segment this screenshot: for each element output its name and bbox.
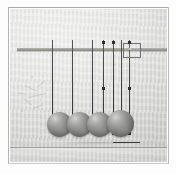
frame-rule-bottom bbox=[8, 163, 169, 164]
speck-8 bbox=[126, 70, 127, 71]
speck-5 bbox=[26, 119, 27, 120]
speck-1 bbox=[31, 76, 33, 78]
speck-2 bbox=[44, 72, 45, 73]
marker-left-mid bbox=[102, 87, 105, 90]
sighting-box bbox=[123, 43, 141, 58]
speck-6 bbox=[47, 90, 48, 91]
marker-right-mid bbox=[128, 87, 131, 90]
frame-rule-left bbox=[8, 7, 9, 164]
wire-1 bbox=[52, 40, 53, 116]
wire-3 bbox=[92, 40, 93, 116]
wire-5 bbox=[113, 40, 114, 116]
photograph-plate bbox=[10, 9, 167, 162]
marker-mid-upper bbox=[112, 41, 115, 44]
background-vignette bbox=[10, 9, 167, 162]
photo-border bbox=[0, 0, 176, 174]
speck-3 bbox=[21, 110, 23, 112]
frame-rule-right bbox=[168, 7, 169, 164]
speck-7 bbox=[114, 64, 115, 65]
wire-2 bbox=[72, 40, 73, 116]
speck-4 bbox=[40, 99, 41, 100]
shelf-surface bbox=[10, 148, 167, 162]
ball-4-highlight bbox=[107, 110, 134, 137]
marker-left-upper bbox=[102, 41, 105, 44]
frame-rule-top bbox=[8, 7, 169, 8]
sighting-box-dot bbox=[129, 48, 131, 50]
marker-right-upper bbox=[128, 41, 131, 44]
ball-4 bbox=[107, 110, 134, 137]
